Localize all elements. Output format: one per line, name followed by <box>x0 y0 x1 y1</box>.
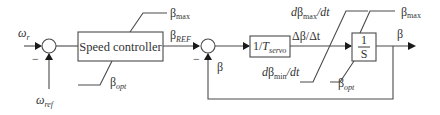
beta-output-arrowhead <box>408 42 416 50</box>
beta-ref-label: βREF <box>170 28 191 44</box>
integrator-min-label: βopt <box>338 76 355 92</box>
rate-max-label: dβmax/dt <box>291 5 330 21</box>
beta-feedback-label: β <box>217 60 223 74</box>
controller-max-label: βmax <box>170 6 190 21</box>
omega-r-label: ωr <box>18 26 30 42</box>
integrator-block: 1 S <box>352 33 376 61</box>
controller-min-limit-line <box>78 61 112 85</box>
integrator-max-limit-line <box>360 11 395 33</box>
omega-r-arrowhead <box>35 42 42 50</box>
speed-controller-label: Speed controller <box>79 40 162 54</box>
beta-ref-arrowhead <box>193 42 200 50</box>
servo-input-arrowhead <box>243 42 250 50</box>
integrator-max-label: βmax <box>401 5 421 20</box>
summing-junction-pitch <box>201 39 215 53</box>
integrator-numerator: 1 <box>361 33 367 47</box>
summing-junction-speed <box>42 39 56 53</box>
delta-beta-label: Δβ/Δt <box>292 29 321 43</box>
servo-block: 1/Tservo <box>250 36 290 57</box>
integrator-input-arrowhead <box>345 42 352 50</box>
speed-junction-minus-sign: − <box>32 52 39 66</box>
beta-output-label: β <box>397 27 403 41</box>
controller-max-limit-line <box>130 13 167 32</box>
integrator-denominator: S <box>361 47 368 61</box>
speed-controller-block: Speed controller <box>78 32 163 61</box>
omega-ref-label: ωref <box>36 93 55 109</box>
omega-ref-arrowhead <box>45 53 53 60</box>
beta-feedback-arrowhead <box>204 53 212 60</box>
pitch-junction-minus-sign: − <box>193 52 200 66</box>
rate-min-label: dβmin/dt <box>262 65 300 81</box>
pitch-control-diagram: ωr − ωref Speed controller βmax βopt βRE… <box>0 0 440 115</box>
controller-min-label: βopt <box>110 75 127 91</box>
